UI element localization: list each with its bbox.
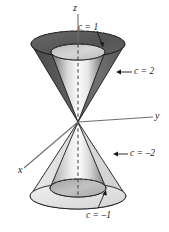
axis-label-z: z [73, 3, 77, 13]
axis-label-y: y [155, 111, 159, 121]
level-label-c-equals-2: c = 2 [134, 67, 154, 77]
leader-c2-arrowhead [116, 70, 121, 75]
level-surfaces-figure: z y x c = 1 c = 2 c = –2 c = –1 [0, 0, 169, 232]
level-label-c-equals-1: c = 1 [78, 23, 98, 33]
leader-cminus2-arrowhead [113, 152, 118, 157]
y-axis [78, 117, 153, 122]
level-label-c-equals-minus-1: c = –1 [86, 211, 111, 221]
axis-label-x: x [18, 165, 22, 175]
level-label-c-equals-minus-2: c = –2 [130, 149, 155, 159]
cone-diagram-svg [0, 0, 169, 232]
